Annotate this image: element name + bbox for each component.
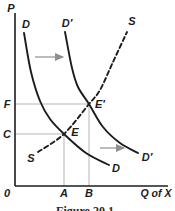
curve-label-s-top: S [128, 16, 135, 27]
origin-label: 0 [4, 188, 10, 199]
figure-caption: Figure 20.1 [40, 204, 130, 211]
plot-canvas [0, 0, 175, 211]
curve-label-d-right: D [112, 163, 120, 174]
point-label-e-prime: E′ [95, 99, 105, 110]
price-label-f: F [4, 99, 11, 110]
curve-label-d-prime-top: D′ [62, 18, 73, 29]
curves [24, 32, 138, 165]
x-axis-label: Q of X [141, 188, 172, 199]
curve-label-d-top: D [22, 19, 30, 30]
price-label-c: C [3, 129, 11, 140]
point-label-e: E [71, 127, 78, 138]
p-axis-label: P [7, 3, 14, 14]
quantity-label-a: A [60, 188, 68, 199]
quantity-label-b: B [85, 188, 93, 199]
guide-lines [15, 104, 89, 186]
curve-label-d-prime-right: D′ [142, 152, 153, 163]
curve-label-s-bottom: S [27, 153, 34, 164]
supply-demand-figure: PDD′SFCE′ESD′D0ABQ of X Figure 20.1 [0, 0, 175, 211]
